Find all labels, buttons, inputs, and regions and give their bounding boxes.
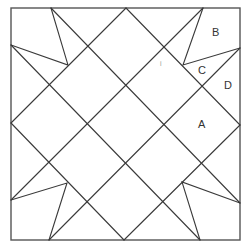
diagonal-line [126, 8, 240, 125]
piece-label-c: C [198, 64, 206, 76]
diagonal-line [49, 48, 240, 240]
corner-triangles [11, 8, 240, 240]
corner-triangle [182, 182, 240, 240]
piece-label-b: B [212, 26, 219, 38]
diagonal-line [11, 45, 200, 240]
piece-label-a: A [198, 118, 206, 130]
diagonal-line [11, 8, 203, 200]
quilt-block-diagram: ABCD i [0, 0, 247, 250]
stray-marks: i [160, 60, 162, 67]
diagonal-lines [11, 8, 240, 240]
piece-labels: ABCD [198, 26, 232, 130]
piece-label-d: D [224, 79, 232, 91]
outer-square [11, 8, 240, 240]
stray-mark: i [160, 60, 162, 67]
